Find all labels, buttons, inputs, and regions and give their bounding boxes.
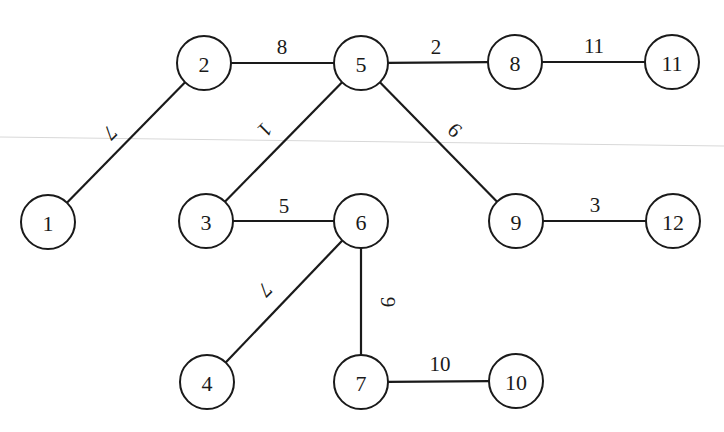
node-4: 4 [180, 355, 234, 409]
edge-3-5 [225, 82, 342, 201]
node-label: 8 [510, 51, 521, 76]
node-label: 7 [356, 371, 367, 396]
node-label: 10 [505, 370, 527, 395]
edge-weight-label: 10 [430, 352, 451, 376]
edge-weight-label: 11 [584, 34, 604, 58]
tree-diagram: 7812611537910 123456789101112 [0, 0, 724, 432]
edge-1-2 [67, 82, 185, 202]
node-label: 11 [661, 51, 682, 76]
node-2: 2 [177, 36, 231, 90]
node-label: 12 [662, 210, 684, 235]
node-7: 7 [334, 355, 388, 409]
edge-weight-label: 2 [431, 35, 442, 59]
edge-weight-label: 1 [253, 118, 277, 142]
node-6: 6 [334, 194, 388, 248]
edge-weight-label: 9 [376, 297, 400, 308]
edge-4-6 [226, 241, 343, 363]
node-8: 8 [488, 35, 542, 89]
node-5: 5 [334, 36, 388, 90]
edge-weight-label: 3 [590, 193, 601, 217]
node-label: 5 [356, 52, 367, 77]
node-label: 1 [43, 211, 54, 236]
node-label: 3 [201, 210, 212, 235]
edge-weight-label: 7 [253, 278, 277, 302]
edge-5-8 [388, 62, 488, 63]
diagram-canvas: 7812611537910 123456789101112 [0, 0, 724, 432]
node-10: 10 [489, 354, 543, 408]
edge-weight-label: 7 [98, 121, 122, 145]
node-label: 4 [202, 371, 213, 396]
node-3: 3 [179, 194, 233, 248]
node-11: 11 [645, 35, 699, 89]
edge-weight-label: 8 [277, 35, 288, 59]
node-12: 12 [646, 194, 700, 248]
node-label: 9 [511, 210, 522, 235]
edge-weight-label: 6 [443, 118, 467, 142]
node-label: 6 [356, 210, 367, 235]
edge-7-10 [388, 381, 489, 382]
node-1: 1 [21, 195, 75, 249]
node-9: 9 [489, 194, 543, 248]
node-label: 2 [199, 52, 210, 77]
edge-weight-label: 5 [279, 194, 290, 218]
